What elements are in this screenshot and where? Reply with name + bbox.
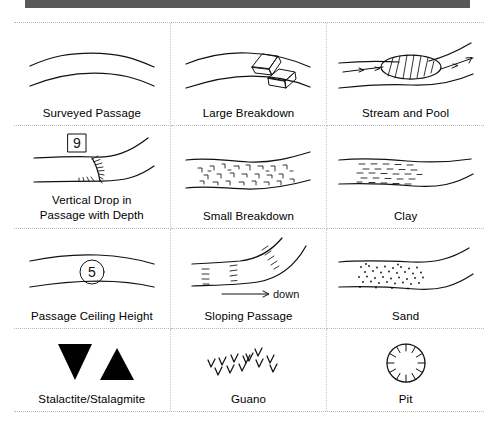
legend-label-stalactite-stalagmite: Stalactite/Stalagmite — [36, 392, 147, 411]
stalactite-triangle — [58, 344, 92, 380]
legend-cell-large-breakdown: Large Breakdown — [171, 23, 328, 126]
legend-label-large-breakdown: Large Breakdown — [201, 106, 297, 125]
header-bar — [25, 0, 470, 8]
sloping-passage-icon: down — [171, 233, 327, 309]
surveyed-passage-icon — [14, 27, 170, 106]
legend-label-sand: Sand — [390, 309, 421, 328]
sloping-passage-down-label: down — [273, 288, 299, 300]
cave-symbols-legend-grid: Surveyed Passage Large Breakdown — [14, 22, 484, 412]
vertical-drop-icon: 9 — [14, 130, 170, 193]
pit-icon — [327, 333, 484, 392]
legend-cell-stream-and-pool: Stream and Pool — [327, 23, 484, 126]
large-breakdown-icon — [171, 27, 327, 106]
stream-and-pool-icon — [327, 27, 484, 106]
passage-ceiling-height-icon: 5 — [14, 233, 170, 309]
legend-label-vertical-drop: Vertical Drop in Passage with Depth — [38, 193, 146, 228]
legend-label-stream-and-pool: Stream and Pool — [360, 106, 451, 125]
legend-cell-stalactite-stalagmite: Stalactite/Stalagmite — [14, 329, 171, 411]
legend-label-pit: Pit — [397, 392, 415, 411]
legend-cell-sand: Sand — [327, 229, 484, 329]
legend-cell-surveyed-passage: Surveyed Passage — [14, 23, 171, 126]
passage-ceiling-height-value: 5 — [88, 264, 96, 280]
legend-cell-passage-ceiling-height: 5 Passage Ceiling Height — [14, 229, 171, 329]
legend-label-clay: Clay — [392, 209, 419, 228]
legend-label-passage-ceiling-height: Passage Ceiling Height — [29, 309, 155, 328]
small-breakdown-icon — [171, 130, 327, 209]
stalactite-stalagmite-icon — [14, 333, 170, 392]
legend-cell-vertical-drop: 9 Vertical Drop in Passage with Depth — [14, 126, 171, 229]
guano-icon — [171, 333, 327, 392]
legend-label-guano: Guano — [229, 392, 268, 411]
legend-label-sloping-passage: Sloping Passage — [203, 309, 295, 328]
legend-cell-clay: Clay — [327, 126, 484, 229]
legend-label-surveyed-passage: Surveyed Passage — [41, 106, 143, 125]
vertical-drop-depth-value: 9 — [73, 135, 81, 151]
legend-label-small-breakdown: Small Breakdown — [201, 209, 296, 228]
legend-cell-sloping-passage: down Sloping Passage — [171, 229, 328, 329]
legend-cell-guano: Guano — [171, 329, 328, 411]
stalagmite-triangle — [100, 348, 134, 380]
legend-cell-pit: Pit — [327, 329, 484, 411]
legend-cell-small-breakdown: Small Breakdown — [171, 126, 328, 229]
sand-icon — [327, 233, 484, 309]
clay-icon — [327, 130, 484, 209]
